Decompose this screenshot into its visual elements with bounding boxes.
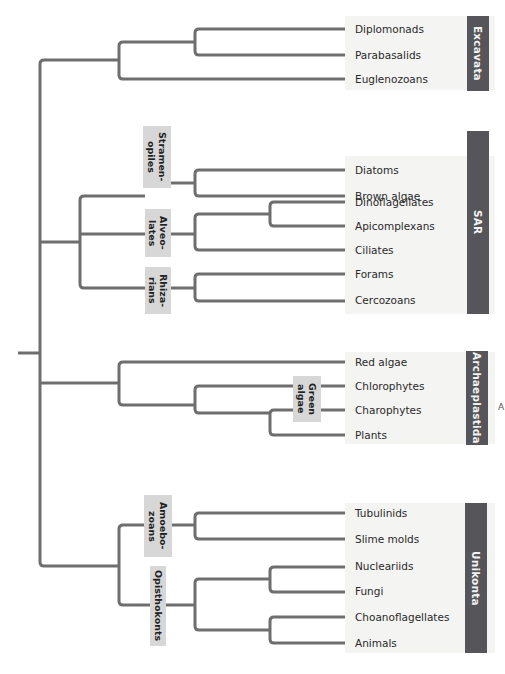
supergroup-archaeplastida-label: Archaeplastida bbox=[471, 352, 483, 444]
diplomonad-parabasalid-node bbox=[195, 29, 345, 55]
leaf-tubulinids: Tubulinids bbox=[355, 506, 407, 520]
leaf-ciliates: Ciliates bbox=[355, 243, 394, 257]
leaf-slime-molds: Slime molds bbox=[355, 532, 419, 546]
dino-apicomplexan-node bbox=[270, 202, 345, 226]
leaf-red-algae: Red algae bbox=[355, 355, 407, 369]
leaf-fungi: Fungi bbox=[355, 584, 383, 598]
leaf-charophytes: Charophytes bbox=[355, 403, 422, 417]
leaf-choanoflagellates: Choanoflagellates bbox=[355, 610, 449, 624]
supergroup-sar-label: SAR bbox=[472, 210, 484, 234]
nucleariid-fungi-node bbox=[270, 567, 345, 592]
supergroup-unikonta: Unikonta bbox=[465, 503, 487, 653]
excavata-node bbox=[119, 42, 345, 79]
supergroup-archaeplastida: Archaeplastida bbox=[466, 351, 488, 445]
supergroup-excavata: Excavata bbox=[467, 16, 489, 91]
clade-amoebozoans: Amoebo- zoans bbox=[144, 495, 172, 557]
phylogenetic-tree bbox=[0, 0, 505, 674]
leaf-diatoms: Diatoms bbox=[355, 163, 399, 177]
rhizarians-node bbox=[195, 274, 345, 301]
clade-stramenopiles: Stramen- opiles bbox=[143, 126, 171, 188]
root-node bbox=[40, 60, 119, 566]
clade-amoebozoans-label: Amoebo- zoans bbox=[147, 502, 169, 550]
clade-alveolates-label: Alveo- lates bbox=[147, 216, 169, 250]
supergroup-sar: SAR bbox=[467, 131, 489, 314]
clade-stramenopiles-label: Stramen- opiles bbox=[146, 132, 168, 182]
leaf-chlorophytes: Chlorophytes bbox=[355, 379, 424, 393]
clade-opisthokonts-label: Opisthokonts bbox=[153, 570, 164, 641]
choano-animal-node bbox=[270, 617, 345, 643]
leaf-animals: Animals bbox=[355, 636, 397, 650]
clade-rhizarians: Rhiza- rians bbox=[145, 267, 171, 314]
clade-opisthokonts: Opisthokonts bbox=[150, 566, 166, 646]
clade-green-algae: Green algae bbox=[293, 376, 321, 422]
supergroup-excavata-label: Excavata bbox=[472, 26, 484, 81]
clade-rhizarians-label: Rhiza- rians bbox=[147, 274, 169, 307]
leaf-apicomplexans: Apicomplexans bbox=[355, 219, 435, 233]
opisthokonts-node bbox=[195, 579, 270, 630]
leaf-plants: Plants bbox=[355, 428, 387, 442]
leaf-diplomonads: Diplomonads bbox=[355, 22, 424, 36]
supergroup-unikonta-label: Unikonta bbox=[470, 551, 482, 606]
amoebozoans-node bbox=[195, 513, 345, 539]
leaf-parabasalids: Parabasalids bbox=[355, 48, 421, 62]
stramenopiles-node bbox=[195, 170, 345, 196]
clade-green-algae-label: Green algae bbox=[296, 383, 318, 415]
leaf-nucleariids: Nucleariids bbox=[355, 559, 413, 573]
sar-node bbox=[80, 196, 145, 288]
leaf-euglenozoans: Euglenozoans bbox=[355, 72, 428, 86]
leaf-dinoflagellates: Dinoflagellates bbox=[355, 195, 434, 209]
clade-alveolates: Alveo- lates bbox=[145, 209, 171, 257]
leaf-cercozoans: Cercozoans bbox=[355, 293, 416, 307]
leaf-forams: Forams bbox=[355, 267, 394, 281]
stray-mark: A bbox=[498, 402, 504, 412]
